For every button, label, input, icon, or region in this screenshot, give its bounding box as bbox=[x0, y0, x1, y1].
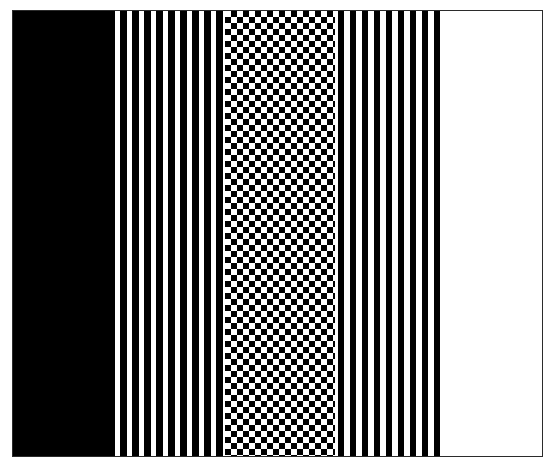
tone-band-5-solid-white bbox=[445, 11, 542, 456]
tone-band-4-sparse-dark bbox=[335, 11, 445, 456]
tone-band-3-checkerboard-50 bbox=[225, 11, 335, 456]
page-canvas bbox=[0, 0, 553, 467]
halftone-plate bbox=[12, 10, 543, 457]
tone-band-1-solid-black bbox=[13, 11, 112, 456]
tone-band-2-dense-dark bbox=[112, 11, 225, 456]
